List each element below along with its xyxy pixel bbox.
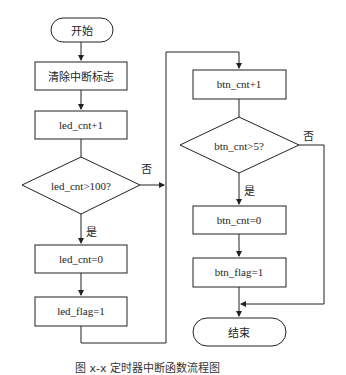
btn-flag-label: btn_flag=1 bbox=[215, 266, 263, 278]
led-reset-label: led_cnt=0 bbox=[59, 253, 103, 265]
btn-yes-label: 是 bbox=[244, 182, 255, 198]
btn-reset-label: btn_cnt=0 bbox=[217, 214, 262, 226]
led-no-label: 否 bbox=[141, 160, 152, 176]
led-flag-label: led_flag=1 bbox=[57, 305, 105, 317]
btn-inc-label: btn_cnt+1 bbox=[217, 78, 262, 90]
led-yes-label: 是 bbox=[86, 223, 97, 239]
figure-caption: 图 x-x 定时器中断函数流程图 bbox=[75, 359, 220, 375]
end-label: 结束 bbox=[228, 324, 250, 340]
btn-cond-label: btn_cnt>5? bbox=[214, 140, 264, 152]
clear-flag-label: 清除中断标志 bbox=[48, 68, 114, 84]
led-inc-label: led_cnt+1 bbox=[59, 119, 103, 131]
btn-no-label: 否 bbox=[303, 127, 314, 143]
start-label: 开始 bbox=[71, 22, 93, 38]
led-cond-label: led_cnt>100? bbox=[51, 180, 111, 192]
